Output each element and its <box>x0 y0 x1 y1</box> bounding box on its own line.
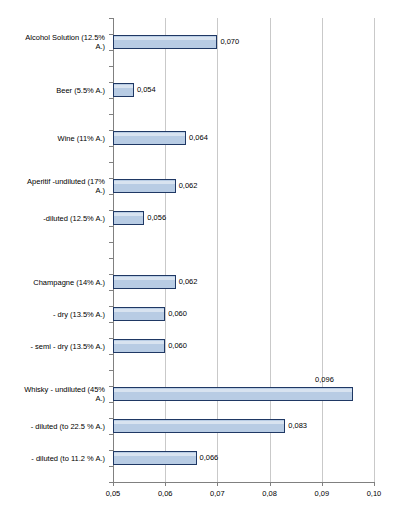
bar[interactable] <box>113 339 165 352</box>
category-label-line: A.) <box>0 42 105 51</box>
y-axis-category-label: -diluted (12.5% A.) <box>0 214 108 223</box>
category-label-line: A.) <box>0 186 105 195</box>
category-label-line: Alcohol Solution (12.5% <box>0 33 105 42</box>
x-axis-tick-mark <box>322 482 323 486</box>
bar-value-label: 0,056 <box>147 213 166 222</box>
bar-highlight <box>114 85 133 88</box>
category-label-line: A.) <box>0 394 105 403</box>
category-label-line: Aperitif -undiluted (17% <box>0 177 105 186</box>
bar-value-label: 0,054 <box>137 85 156 94</box>
y-axis-category-label: Whisky - undiluted (45%A.) <box>0 385 108 403</box>
bar[interactable] <box>113 211 144 224</box>
x-axis-tick-mark <box>217 482 218 486</box>
bar[interactable] <box>113 419 285 432</box>
bar-value-label: 0,062 <box>179 277 198 286</box>
bar-highlight <box>114 389 352 392</box>
x-axis-tick-label: 0,05 <box>93 489 133 498</box>
category-label-line: Wine (11% A.) <box>0 134 105 143</box>
x-axis-tick-mark <box>165 482 166 486</box>
x-axis-tick-label: 0,08 <box>250 489 290 498</box>
y-axis-category-label: Alcohol Solution (12.5%A.) <box>0 33 108 51</box>
bar-value-label: 0,083 <box>288 421 307 430</box>
bar-value-label: 0,060 <box>168 341 187 350</box>
gridline <box>270 18 271 482</box>
category-label-line: - diluted (to 11.2 % A.) <box>0 454 105 463</box>
category-label-line: Beer (5.5% A.) <box>0 86 105 95</box>
bar-value-label: 0,064 <box>189 133 208 142</box>
y-axis-category-label: - semi - dry (13.5% A.) <box>0 342 108 351</box>
bar-highlight <box>114 37 216 40</box>
bar-chart: 0,050,060,070,080,090,10 Alcohol Solutio… <box>0 0 399 522</box>
bar[interactable] <box>113 307 165 320</box>
x-axis-tick-label: 0,06 <box>145 489 185 498</box>
bar-value-label: 0,066 <box>200 453 219 462</box>
bar[interactable] <box>113 35 217 48</box>
bar-value-label: 0,062 <box>179 181 198 190</box>
x-axis-tick-mark <box>113 482 114 486</box>
x-axis-line <box>113 482 375 483</box>
x-axis-tick-mark <box>270 482 271 486</box>
bar[interactable] <box>113 451 197 464</box>
category-label-line: - dry (13.5% A.) <box>0 310 105 319</box>
category-label-line: Champagne (14% A.) <box>0 278 105 287</box>
gridline <box>217 18 218 482</box>
bar[interactable] <box>113 179 176 192</box>
x-axis-tick-mark <box>374 482 375 486</box>
category-label-line: Whisky - undiluted (45% <box>0 385 105 394</box>
category-label-line: - semi - dry (13.5% A.) <box>0 342 105 351</box>
y-axis-category-label: - diluted (to 22.5 % A.) <box>0 422 108 431</box>
gridline <box>374 18 375 482</box>
bar[interactable] <box>113 275 176 288</box>
bar-highlight <box>114 181 175 184</box>
bar-highlight <box>114 213 143 216</box>
y-axis-category-label: Champagne (14% A.) <box>0 278 108 287</box>
bar-highlight <box>114 309 164 312</box>
y-axis-category-label: Beer (5.5% A.) <box>0 86 108 95</box>
bar-value-label: 0,060 <box>168 309 187 318</box>
category-label-line: - diluted (to 22.5 % A.) <box>0 422 105 431</box>
bar-value-label: 0,070 <box>220 37 239 46</box>
bar-value-label: 0,096 <box>315 375 334 384</box>
bar[interactable] <box>113 387 353 400</box>
bar[interactable] <box>113 131 186 144</box>
category-label-line: -diluted (12.5% A.) <box>0 214 105 223</box>
y-axis-category-label: Wine (11% A.) <box>0 134 108 143</box>
gridline <box>322 18 323 482</box>
bar-highlight <box>114 341 164 344</box>
bar[interactable] <box>113 83 134 96</box>
bar-highlight <box>114 277 175 280</box>
y-axis-category-label: - diluted (to 11.2 % A.) <box>0 454 108 463</box>
bar-highlight <box>114 453 196 456</box>
x-axis-tick-label: 0,10 <box>354 489 394 498</box>
x-axis-tick-label: 0,09 <box>302 489 342 498</box>
gridline <box>165 18 166 482</box>
bar-highlight <box>114 133 185 136</box>
x-axis-tick-label: 0,07 <box>197 489 237 498</box>
y-axis-category-label: - dry (13.5% A.) <box>0 310 108 319</box>
y-axis-category-label: Aperitif -undiluted (17%A.) <box>0 177 108 195</box>
bar-highlight <box>114 421 284 424</box>
